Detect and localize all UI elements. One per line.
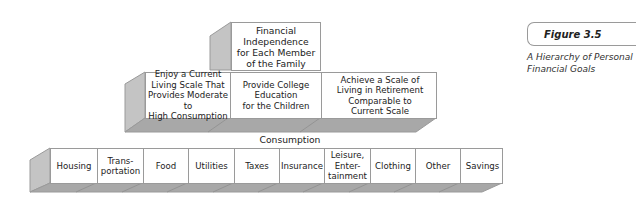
- consumption-label: Consumption: [230, 134, 350, 145]
- consumption-other: Other: [415, 149, 460, 183]
- consumption-taxes: Taxes: [234, 149, 279, 183]
- figure-title: A Hierarchy of Personal Financial Goals: [527, 51, 636, 75]
- figure-label: Figure 3.5: [527, 22, 636, 46]
- middle-tier: Enjoy a Current Living Scale That Provid…: [145, 72, 437, 119]
- consumption-transportation: Trans- portation: [97, 149, 143, 183]
- consumption-clothing: Clothing: [370, 149, 415, 183]
- consumption-tier: Housing Trans- portation Food Utilities …: [50, 148, 503, 184]
- goal-financial-independence: Financial Independence for Each Member o…: [231, 22, 321, 71]
- consumption-savings: Savings: [460, 149, 504, 183]
- consumption-food: Food: [143, 149, 188, 183]
- goal-college-education: Provide College Education for the Childr…: [230, 73, 321, 118]
- goal-retirement-living-scale: Achieve a Scale of Living in Retirement …: [321, 73, 438, 118]
- consumption-insurance: Insurance: [279, 149, 324, 183]
- consumption-utilities: Utilities: [188, 149, 234, 183]
- goal-current-living-scale: Enjoy a Current Living Scale That Provid…: [146, 73, 230, 118]
- consumption-housing: Housing: [51, 149, 97, 183]
- consumption-leisure-entertainment: Leisure, Enter- tainment: [324, 149, 370, 183]
